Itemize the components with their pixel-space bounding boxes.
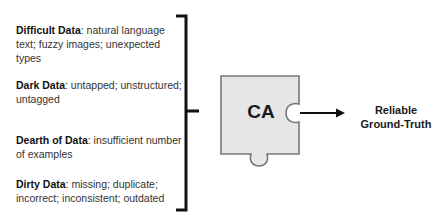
output-line-1: Reliable: [352, 103, 440, 117]
output-label: Reliable Ground-Truth: [352, 103, 440, 131]
bracket-icon: [176, 16, 199, 210]
puzzle-label: CA: [238, 101, 284, 123]
arrow-head-icon: [336, 109, 345, 118]
output-line-2: Ground-Truth: [352, 117, 440, 131]
